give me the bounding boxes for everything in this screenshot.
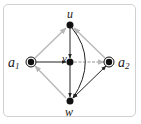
label-w: w <box>65 105 73 119</box>
node-a1 <box>26 57 36 67</box>
node-u <box>67 22 74 29</box>
edge-w-a1 <box>35 66 66 98</box>
label-a1: a1 <box>8 55 20 71</box>
node-v <box>67 59 74 66</box>
label-u: u <box>67 7 73 21</box>
edge-a2-u <box>74 28 106 59</box>
node-a2 <box>104 57 114 67</box>
edge-w-a2 <box>73 66 106 98</box>
graph-canvas: u v w a1 a2 <box>0 0 141 124</box>
node-w <box>67 98 74 105</box>
label-a2: a2 <box>118 55 130 71</box>
label-v: v <box>62 52 67 64</box>
